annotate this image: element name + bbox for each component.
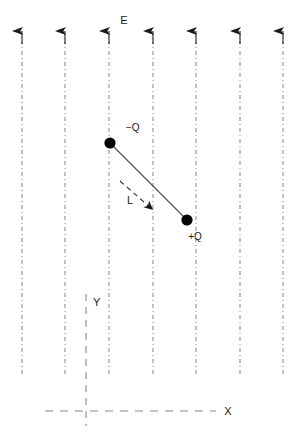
y-axis: Y <box>86 294 101 426</box>
field-label-E: E <box>120 14 127 26</box>
physics-diagram-figure: E Y X L −Q +Q <box>0 0 304 433</box>
length-vector-arrow <box>120 181 152 209</box>
length-vector-label-L: L <box>127 194 133 206</box>
diagram-canvas: E Y X L −Q +Q <box>0 0 304 433</box>
electric-field-lines <box>22 31 283 374</box>
y-axis-label: Y <box>93 296 101 308</box>
positive-charge-dot <box>181 214 192 225</box>
x-axis-label: X <box>224 405 232 417</box>
positive-charge: +Q <box>181 214 202 241</box>
negative-charge-dot <box>104 137 115 148</box>
dipole-rod <box>110 143 187 220</box>
negative-charge: −Q <box>104 122 139 149</box>
negative-charge-label: −Q <box>126 122 140 133</box>
dipole-length-vector: L <box>120 181 152 209</box>
x-axis: X <box>45 405 232 417</box>
positive-charge-label: +Q <box>188 231 202 242</box>
